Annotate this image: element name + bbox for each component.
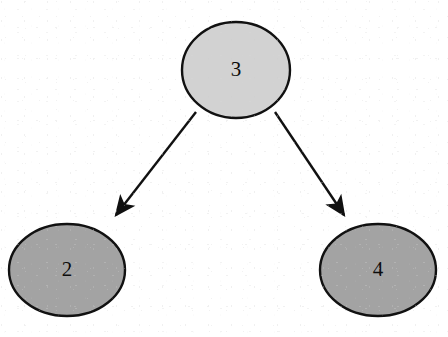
node-right-child-label: 4 bbox=[373, 257, 384, 281]
node-left-child-label: 2 bbox=[62, 257, 73, 281]
node-root-label: 3 bbox=[231, 57, 242, 81]
node-left-child[interactable]: 2 bbox=[9, 224, 125, 316]
edge-root-to-left bbox=[116, 112, 196, 215]
node-root[interactable]: 3 bbox=[182, 22, 290, 118]
edge-group bbox=[116, 112, 344, 215]
edge-root-to-right bbox=[275, 112, 344, 215]
binary-tree-diagram: 3 2 4 bbox=[0, 0, 448, 337]
diagram-canvas: 3 2 4 bbox=[0, 0, 448, 337]
node-right-child[interactable]: 4 bbox=[320, 224, 436, 316]
